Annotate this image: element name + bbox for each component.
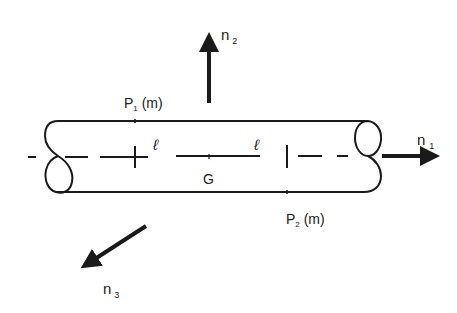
diagram-svg: P1 (m) P2 (m) ℓ ℓ G n2 n1 n3 — [0, 0, 457, 313]
label-ell-right: ℓ — [253, 136, 260, 153]
left-cap-ellipse — [45, 156, 72, 193]
label-ell-left: ℓ — [152, 136, 159, 153]
label-n2: n2 — [221, 26, 237, 46]
diagram-canvas: P1 (m) P2 (m) ℓ ℓ G n2 n1 n3 — [0, 0, 457, 313]
label-n1: n1 — [417, 131, 434, 151]
right-cap-lower-curve — [364, 156, 381, 192]
label-p2: P2 (m) — [286, 211, 325, 229]
label-g: G — [203, 171, 214, 187]
label-n3: n3 — [103, 280, 119, 300]
label-p1: P1 (m) — [124, 95, 163, 113]
n3-arrow — [84, 226, 146, 266]
left-cap-upper-curve — [45, 121, 58, 156]
axis — [28, 156, 348, 157]
right-cap-ellipse — [355, 121, 381, 156]
